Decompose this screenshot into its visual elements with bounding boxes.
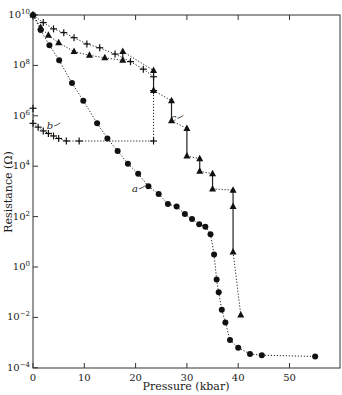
- curve-label-a: a: [132, 183, 138, 194]
- y-tick-label: 108: [13, 58, 30, 70]
- y-tick-label: 10−2: [7, 310, 30, 322]
- plot-frame: [33, 15, 340, 368]
- y-axis-title: Resistance (Ω): [2, 151, 15, 233]
- y-tick-label: 1010: [8, 8, 30, 20]
- curve-labels: abc: [47, 112, 184, 194]
- series-a: [30, 12, 318, 359]
- x-tick-label: 20: [129, 372, 142, 383]
- y-tick-label: 106: [13, 109, 31, 121]
- data-series: [30, 11, 319, 359]
- y-tick-label: 104: [13, 159, 31, 171]
- x-axis-title: Pressure (kbar): [143, 380, 230, 393]
- resistance-pressure-chart: 01020304050 101010810610410210010−210−4 …: [0, 0, 342, 395]
- series-c: [30, 11, 245, 317]
- curve-label-b: b: [47, 120, 53, 131]
- x-tick-label: 40: [232, 372, 245, 383]
- x-tick-label: 50: [283, 372, 296, 383]
- y-tick-label: 100: [13, 260, 30, 272]
- y-tick-label: 10−4: [7, 361, 31, 373]
- series-b: [30, 87, 158, 144]
- x-tick-label: 10: [78, 372, 91, 383]
- curve-label-c: c: [171, 112, 177, 123]
- y-tick-label: 102: [13, 210, 30, 222]
- x-tick-label: 0: [30, 372, 36, 383]
